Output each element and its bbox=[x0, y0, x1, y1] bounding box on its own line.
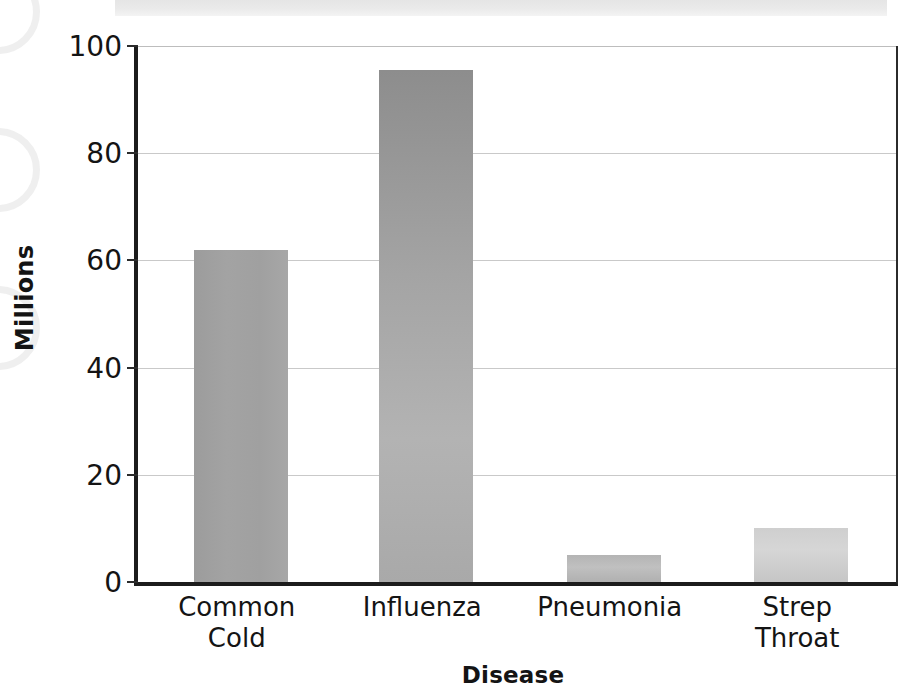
x-axis-category-label: Pneumonia bbox=[515, 592, 705, 623]
y-axis-tick-label: 40 bbox=[86, 351, 122, 384]
plot-area: 020406080100 bbox=[134, 46, 898, 586]
y-axis-tick bbox=[127, 367, 138, 369]
x-axis-category-label-line: Pneumonia bbox=[515, 592, 705, 623]
y-axis-tick bbox=[127, 581, 138, 583]
y-axis-tick-label: 100 bbox=[69, 30, 122, 63]
x-axis-category-label: StrepThroat bbox=[703, 592, 893, 653]
scan-strip-artifact bbox=[115, 0, 887, 16]
gridline bbox=[138, 46, 896, 47]
y-axis-tick bbox=[127, 152, 138, 154]
x-axis-category-label-line: Strep bbox=[703, 592, 893, 623]
x-axis-category-label: CommonCold bbox=[142, 592, 332, 653]
y-axis-tick-label: 0 bbox=[104, 566, 122, 599]
x-axis-category-label-line: Throat bbox=[703, 623, 893, 654]
binding-ring-artifact bbox=[0, 128, 40, 212]
x-axis-category-label-line: Cold bbox=[142, 623, 332, 654]
gridline bbox=[138, 153, 896, 154]
y-axis-tick-label: 20 bbox=[86, 458, 122, 491]
x-axis-category-label: Influenza bbox=[328, 592, 518, 623]
binding-ring-artifact bbox=[0, 0, 40, 54]
x-axis-category-label-line: Influenza bbox=[328, 592, 518, 623]
y-axis-tick-label: 80 bbox=[86, 137, 122, 170]
bar-common-cold bbox=[194, 250, 288, 582]
y-axis-tick-label: 60 bbox=[86, 244, 122, 277]
y-axis-title: Millions bbox=[11, 238, 39, 358]
bar-chart-figure: Millions 020406080100 Disease CommonCold… bbox=[0, 0, 898, 699]
y-axis-tick bbox=[127, 474, 138, 476]
plot-inner: 020406080100 bbox=[138, 46, 896, 582]
x-axis-title: Disease bbox=[134, 662, 892, 688]
bar-strep-throat bbox=[754, 528, 848, 582]
bar-pneumonia bbox=[567, 555, 661, 582]
x-axis-category-label-line: Common bbox=[142, 592, 332, 623]
y-axis-tick bbox=[127, 45, 138, 47]
y-axis-tick bbox=[127, 259, 138, 261]
bar-influenza bbox=[379, 70, 473, 582]
